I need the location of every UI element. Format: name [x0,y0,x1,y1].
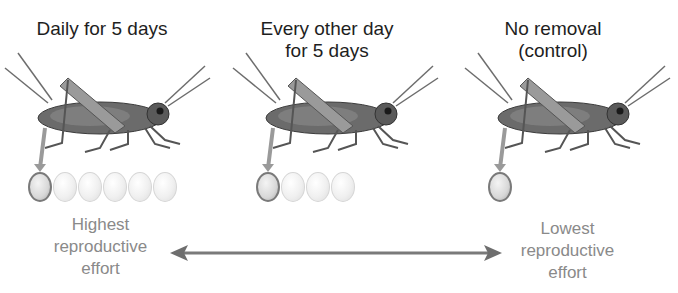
egg-row-every-other-day [256,172,356,202]
egg-icon [153,172,177,202]
egg-icon [28,172,52,202]
lowest-effort-label: Lowest reproductive effort [505,218,630,284]
column-title-daily: Daily for 5 days [22,18,182,40]
egg-icon [331,172,355,202]
egg-icon [103,172,127,202]
egg-icon [306,172,330,202]
egg-icon [128,172,152,202]
egg-icon [78,172,102,202]
label-line: Highest [38,214,163,236]
egg-icon [281,172,305,202]
double-arrow-icon [170,244,502,262]
grasshopper-icon [228,48,443,173]
label-line: Lowest [505,218,630,240]
egg-icon [488,172,512,202]
egg-row-daily [28,172,178,202]
egg-icon [256,172,280,202]
label-line: effort [38,258,163,280]
label-line: effort [505,262,630,284]
label-line: reproductive [505,240,630,262]
grasshopper-icon [460,48,675,173]
grasshopper-icon [0,48,215,173]
column-title-line1: No removal [478,18,628,40]
label-line: reproductive [38,236,163,258]
egg-row-control [488,172,513,202]
egg-icon [53,172,77,202]
column-title-line1: Every other day [222,18,432,40]
highest-effort-label: Highest reproductive effort [38,214,163,280]
